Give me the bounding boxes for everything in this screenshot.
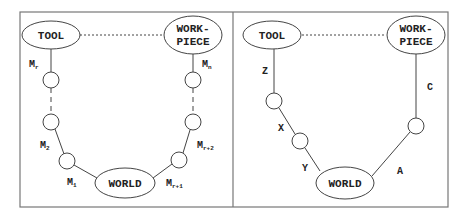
kinematic-chain-diagram: TOOL WORK- PIECE WORLD Mr Mn M2 M1 Mr+1 … [0,0,468,222]
workpiece-node [164,16,222,54]
label-m1: M1 [67,177,77,189]
link-mr2 [183,130,190,153]
link-mr1 [153,164,172,178]
joint-circle [292,133,308,149]
joint-circle [43,114,59,130]
link-m1 [74,165,97,178]
label-c: C [427,82,433,93]
label-z: Z [262,66,268,77]
link-a [372,132,410,176]
label-y: Y [302,163,308,174]
link-m2 [55,129,64,154]
left-panel: TOOL WORK- PIECE WORLD Mr Mn M2 M1 Mr+1 … [22,16,222,198]
world-label: WORLD [328,178,361,190]
joint-circle [59,153,75,169]
label-m2: M2 [40,140,50,152]
workpiece-label-line1: WORK- [176,23,209,35]
joint-circle [408,118,424,134]
tool-label: TOOL [259,30,286,42]
outer-frame [20,12,448,207]
label-a: A [397,166,403,177]
workpiece-label-line2: PIECE [399,36,432,48]
label-mn: Mn [202,59,212,71]
label-mr: Mr [29,59,39,71]
label-mr2: Mr+2 [197,140,214,152]
joint-circle [43,72,59,88]
label-mr1: Mr+1 [166,178,183,190]
world-label: WORLD [108,178,141,190]
workpiece-node [387,16,445,54]
joint-circle [185,72,201,88]
label-x: X [278,123,284,134]
joint-circle [185,114,201,130]
right-panel: TOOL WORK- PIECE WORLD Z X Y A C [243,16,445,199]
tool-label: TOOL [38,30,65,42]
workpiece-label-line1: WORK- [399,23,432,35]
workpiece-label-line2: PIECE [176,36,209,48]
joint-circle [171,152,187,168]
joint-circle [266,93,282,109]
